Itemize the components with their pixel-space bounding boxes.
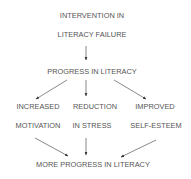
node-stress-line2: IN STRESS bbox=[72, 121, 111, 130]
node-more-progress: MORE PROGRESS IN LITERACY bbox=[36, 160, 150, 169]
node-stress-line1: REDUCTION bbox=[73, 102, 117, 111]
node-stress: REDUCTION IN STRESS bbox=[72, 102, 116, 130]
node-intervention-line2: LITERACY FAILURE bbox=[58, 30, 127, 39]
node-esteem-line2: SELF-ESTEEM bbox=[130, 121, 181, 130]
node-esteem: IMPROVED SELF-ESTEEM bbox=[130, 102, 181, 130]
node-progress: PROGRESS IN LITERACY bbox=[47, 67, 137, 76]
node-intervention: INTERVENTION IN LITERACY FAILURE bbox=[58, 11, 127, 39]
arrow-motivation-to-more-progress bbox=[35, 138, 68, 156]
node-esteem-line1: IMPROVED bbox=[135, 102, 174, 111]
node-motivation: INCREASED MOTIVATION bbox=[16, 102, 61, 130]
arrow-esteem-to-more-progress bbox=[121, 140, 156, 157]
flow-diagram: INTERVENTION IN LITERACY FAILURE PROGRES… bbox=[0, 0, 191, 179]
node-intervention-line1: INTERVENTION IN bbox=[60, 11, 124, 20]
arrow-progress-to-motivation bbox=[36, 80, 67, 99]
arrow-progress-to-esteem bbox=[114, 80, 146, 99]
node-motivation-line1: INCREASED bbox=[16, 102, 59, 111]
node-motivation-line2: MOTIVATION bbox=[16, 121, 61, 130]
